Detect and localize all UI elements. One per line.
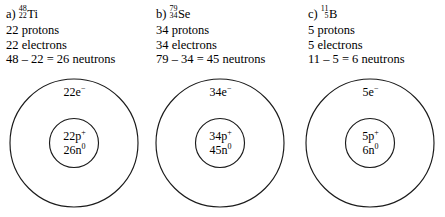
problem-c-isotope-notation: 115B [321,5,338,21]
worksheet-page: __________ a)4822Ti 22 protons 22 electr… [0,0,445,217]
atom-diagrams: 22e− 22p+ 26n0 34e− 34p+ 45n0 5e [0,76,445,217]
problem-a-atomic-number: 22 [19,12,27,19]
problem-c-atomic-number: 5 [321,12,329,19]
atom-b-neutron-count: 45 [210,143,222,157]
atom-b-neutron-charge: 0 [228,142,232,151]
problem-c-heading: c)115B [308,5,445,21]
problem-b-isotope-notation: 7934Se [169,5,190,21]
problem-b-heading: b)7934Se [156,5,302,21]
atom-c-neutron-line: 6n0 [303,143,438,157]
problem-c-electrons: 5 electrons [308,38,445,53]
atom-a-proton-charge: + [81,128,86,137]
problem-a-electrons: 22 electrons [6,38,152,53]
atom-b-electron-count: 34 [210,85,222,99]
atom-diagram-c: 5e− 5p+ 6n0 [303,76,438,212]
atom-a-proton-line: 22p+ [7,129,142,143]
atom-c-electron-charge: − [374,84,379,93]
problem-a-protons: 22 protons [6,23,152,38]
atom-b-neutron-line: 45n0 [153,143,288,157]
atom-b-proton-count: 34 [209,129,221,143]
atom-a-proton-count: 22 [63,129,75,143]
problem-a-heading: a)4822Ti [6,5,152,21]
problem-c: c)115B 5 protons 5 electrons 11 – 5 = 6 … [308,5,445,67]
problem-a-symbol: Ti [27,7,38,21]
problem-b-symbol: Se [178,7,191,21]
problem-a: a)4822Ti 22 protons 22 electrons 48 – 22… [6,5,152,67]
problem-c-neutrons: 11 – 5 = 6 neutrons [308,52,445,67]
problem-a-neutrons: 48 – 22 = 26 neutrons [6,52,152,67]
atom-diagram-a: 22e− 22p+ 26n0 [7,76,142,212]
atom-a-neutron-count: 26 [64,143,76,157]
problem-b: b)7934Se 34 protons 34 electrons 79 – 34… [156,5,302,67]
problem-b-neutrons: 79 – 34 = 45 neutrons [156,52,302,67]
problem-b-protons: 34 protons [156,23,302,38]
problem-b-label: b) [156,7,166,21]
atom-c-proton-charge: + [374,128,379,137]
problem-a-label: a) [6,7,16,21]
problem-c-label: c) [308,7,318,21]
atom-a-electron-label: 22e− [7,86,142,99]
problem-b-isotope-numbers: 7934 [169,5,177,19]
atom-a-electron-count: 22 [64,85,76,99]
atom-b-electron-label: 34e− [153,86,288,99]
problem-columns: a)4822Ti 22 protons 22 electrons 48 – 22… [0,0,445,80]
problem-c-protons: 5 protons [308,23,445,38]
atom-b-nucleus-label: 34p+ 45n0 [153,129,288,157]
atom-c-proton-line: 5p+ [303,129,438,143]
problem-a-isotope-notation: 4822Ti [19,5,38,21]
atom-b-electron-charge: − [227,84,232,93]
atom-diagram-b: 34e− 34p+ 45n0 [153,76,288,212]
atom-c-neutron-charge: 0 [375,142,379,151]
atom-c-electron-label: 5e− [303,86,438,99]
atom-a-neutron-charge: 0 [82,142,86,151]
atom-b-proton-line: 34p+ [153,129,288,143]
atom-a-nucleus-label: 22p+ 26n0 [7,129,142,157]
atom-a-neutron-line: 26n0 [7,143,142,157]
problem-b-atomic-number: 34 [169,12,177,19]
problem-c-isotope-numbers: 115 [321,5,329,19]
problem-c-symbol: B [329,7,337,21]
atom-b-proton-charge: + [227,128,232,137]
problem-b-electrons: 34 electrons [156,38,302,53]
atom-c-nucleus-label: 5p+ 6n0 [303,129,438,157]
atom-a-electron-charge: − [81,84,86,93]
problem-a-isotope-numbers: 4822 [19,5,27,19]
